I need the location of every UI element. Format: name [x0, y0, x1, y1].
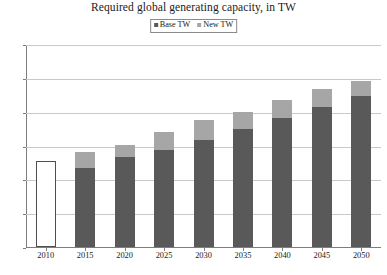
bar-column[interactable] [115, 145, 135, 247]
y-tick-mark [23, 180, 26, 181]
plot-area: 024681012 [26, 45, 381, 248]
legend-swatch-base-tw [154, 23, 158, 27]
x-tick-label: 2045 [313, 251, 330, 260]
bar-column[interactable] [36, 161, 56, 247]
bar-segment-new-tw [75, 152, 95, 168]
x-tick-label: 2030 [195, 251, 212, 260]
chart-title: Required global generating capacity, in … [0, 1, 387, 13]
bar-stack [36, 161, 56, 247]
bar-column[interactable] [272, 100, 292, 247]
y-tick-mark [23, 45, 26, 46]
x-tick-label: 2015 [77, 251, 94, 260]
legend-swatch-new-tw [197, 23, 201, 27]
bar-segment-new-tw [194, 120, 214, 139]
bar-segment-base-tw [36, 161, 56, 247]
bar-column[interactable] [233, 112, 253, 247]
bar-segment-base-tw [351, 96, 371, 247]
bar-segment-base-tw [75, 168, 95, 247]
x-tick-label: 2025 [156, 251, 173, 260]
bar-segment-new-tw [272, 100, 292, 119]
y-tick-mark [23, 248, 26, 249]
legend-label-base-tw: Base TW [160, 21, 191, 29]
y-tick-mark [23, 214, 26, 215]
gridline [26, 79, 381, 80]
legend-entry-new-tw: New TW [197, 21, 233, 29]
bar-stack [272, 100, 292, 247]
x-tick-label: 2010 [37, 251, 54, 260]
bar-segment-new-tw [115, 145, 135, 157]
chart-container: Required global generating capacity, in … [0, 0, 387, 275]
bar-column[interactable] [351, 81, 371, 247]
chart-legend: Base TW New TW [150, 19, 238, 33]
bar-segment-base-tw [272, 118, 292, 247]
bar-stack [75, 152, 95, 247]
bar-segment-base-tw [115, 157, 135, 248]
x-tick-label: 2050 [353, 251, 370, 260]
bar-stack [351, 81, 371, 247]
bar-column[interactable] [75, 152, 95, 247]
x-tick-label: 2020 [116, 251, 133, 260]
x-tick-label: 2035 [235, 251, 252, 260]
bar-stack [312, 89, 332, 247]
bar-segment-new-tw [312, 89, 332, 108]
bar-stack [115, 145, 135, 247]
bar-stack [233, 112, 253, 247]
legend-label-new-tw: New TW [203, 21, 233, 29]
bar-segment-new-tw [233, 112, 253, 129]
bar-segment-new-tw [351, 81, 371, 96]
y-tick-mark [23, 147, 26, 148]
y-tick-mark [23, 113, 26, 114]
bar-column[interactable] [194, 120, 214, 247]
bar-segment-base-tw [194, 140, 214, 247]
bar-stack [194, 120, 214, 247]
bar-segment-base-tw [233, 129, 253, 247]
legend-entry-base-tw: Base TW [154, 21, 191, 29]
x-tick-label: 2040 [274, 251, 291, 260]
bar-column[interactable] [154, 132, 174, 247]
bar-column[interactable] [312, 89, 332, 247]
gridline [26, 45, 381, 46]
bar-stack [154, 132, 174, 247]
bar-segment-new-tw [154, 132, 174, 150]
y-tick-mark [23, 79, 26, 80]
bar-segment-base-tw [154, 150, 174, 247]
bar-segment-base-tw [312, 107, 332, 247]
